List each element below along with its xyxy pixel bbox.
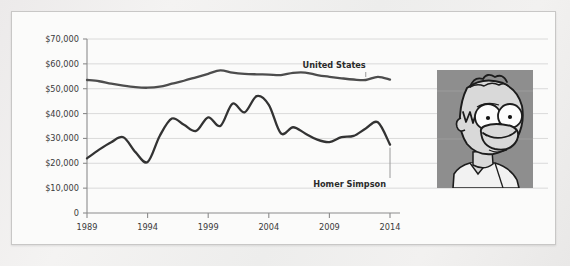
annotation-label-united-states: United States: [303, 60, 366, 70]
chart-figure-frame: $70,000$60,000$50,000$40,000$30,000$20,0…: [11, 11, 556, 245]
y-tick-label-10000: $10,000: [45, 183, 79, 193]
x-tick-label-2004: 2004: [258, 222, 279, 232]
x-tick-label-1994: 1994: [137, 222, 158, 232]
series-line-homer-simpson: [87, 96, 390, 163]
x-tick-label-2009: 2009: [319, 222, 340, 232]
y-tick-label-50000: $50,000: [45, 84, 79, 94]
homer-simpson-illustration: [437, 70, 533, 188]
y-tick-label-70000: $70,000: [45, 34, 79, 44]
annotation-label-homer-simpson: Homer Simpson: [313, 179, 386, 189]
y-tick-label-60000: $60,000: [45, 59, 79, 69]
x-tick-label-1999: 1999: [198, 222, 219, 232]
x-tick-label-2014: 2014: [380, 222, 401, 232]
homer-simpson-portrait: [437, 70, 533, 188]
x-tick-label-1989: 1989: [77, 222, 98, 232]
y-tick-label-20000: $20,000: [45, 158, 79, 168]
y-tick-label-0: 0: [74, 208, 79, 218]
y-tick-label-40000: $40,000: [45, 109, 79, 119]
y-tick-label-30000: $30,000: [45, 133, 79, 143]
series-line-united-states: [87, 70, 390, 87]
